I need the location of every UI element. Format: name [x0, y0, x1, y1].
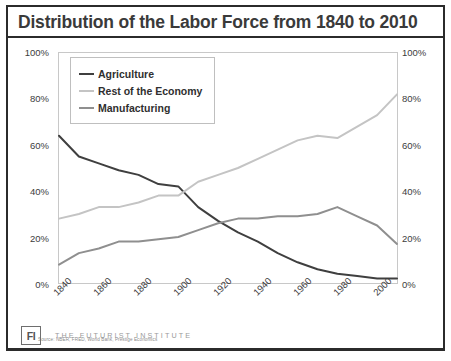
- x-tick-label: 1840: [51, 275, 74, 298]
- y-tick-label-right: 60%: [402, 139, 444, 150]
- legend-item-manufacturing: Manufacturing: [79, 99, 202, 116]
- legend-swatch-rest-of-the-economy: [79, 90, 94, 92]
- y-tick-label-right: 40%: [402, 186, 444, 197]
- legend-label-manufacturing: Manufacturing: [98, 102, 170, 114]
- footer-organization-name: THE FUTURIST INSTITUTE: [55, 331, 192, 340]
- y-tick-label-left: 0%: [9, 279, 49, 290]
- chart-legend: Agriculture Rest of the Economy Manufact…: [70, 57, 215, 124]
- y-tick-label-left: 60%: [9, 139, 49, 150]
- futurist-institute-logo: FI: [21, 326, 41, 345]
- chart-container: 0%20%40%60%80%100% 0%20%40%60%80%100% 18…: [8, 39, 443, 307]
- y-tick-label-right: 100%: [402, 47, 444, 58]
- legend-label-rest-of-the-economy: Rest of the Economy: [98, 85, 202, 97]
- legend-label-agriculture: Agriculture: [98, 68, 154, 80]
- series-line-manufacturing: [59, 207, 397, 265]
- footer: FI THE FUTURIST INSTITUTE: [8, 322, 443, 349]
- legend-item-agriculture: Agriculture: [79, 65, 202, 82]
- y-tick-label-right: 80%: [402, 93, 444, 104]
- page-title: Distribution of the Labor Force from 184…: [18, 12, 418, 33]
- y-tick-label-left: 80%: [9, 93, 49, 104]
- slide: Distribution of the Labor Force from 184…: [0, 0, 451, 361]
- footer-divider: [8, 348, 443, 350]
- y-tick-label-left: 100%: [9, 47, 49, 58]
- y-tick-label-right: 20%: [402, 232, 444, 243]
- legend-swatch-agriculture: [79, 73, 94, 75]
- title-bar: Distribution of the Labor Force from 184…: [8, 7, 443, 37]
- legend-item-rest-of-the-economy: Rest of the Economy: [79, 82, 202, 99]
- y-tick-label-right: 0%: [402, 279, 444, 290]
- y-tick-label-left: 20%: [9, 232, 49, 243]
- title-divider: [8, 36, 443, 38]
- legend-swatch-manufacturing: [79, 107, 94, 109]
- y-tick-label-left: 40%: [9, 186, 49, 197]
